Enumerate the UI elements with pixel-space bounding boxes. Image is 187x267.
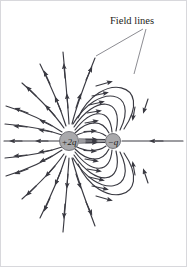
field-line-arrow-seg <box>67 174 68 186</box>
field-line <box>5 147 62 158</box>
negative-charge-label: −q <box>108 137 119 147</box>
field-line-arrow-seg <box>28 186 36 194</box>
field-line <box>72 158 95 226</box>
field-loop-arrow-seg <box>96 196 110 200</box>
figure-frame <box>1 1 187 267</box>
field-line-arrow-seg <box>47 166 55 175</box>
field-lines-callout: Field lines <box>96 15 154 74</box>
positive-charge: +2q <box>60 132 79 151</box>
field-line <box>40 64 66 126</box>
field-loop <box>75 146 106 151</box>
field-line-diagram: +2q −q Field lines <box>0 0 187 267</box>
field-line-arrow-seg <box>76 174 80 186</box>
field-line-arrow-seg <box>17 169 28 173</box>
field-line <box>5 124 62 135</box>
field-loop-arrow-seg <box>84 151 94 152</box>
field-line-arrow-seg <box>86 69 91 80</box>
field-line-arrow-seg <box>42 121 52 126</box>
field-line <box>72 58 95 124</box>
field-line-arrow-seg <box>56 99 61 111</box>
field-line-arrow-seg <box>56 171 61 183</box>
field-line-arrow-seg <box>86 202 91 213</box>
field-loop <box>75 132 106 137</box>
field-line-arrow-seg <box>76 96 80 108</box>
callout-leader-left <box>96 29 143 56</box>
field-loop-arrow-seg <box>96 82 110 86</box>
field-loop-arrow-seg <box>84 131 94 132</box>
field-line-arrow-seg <box>17 109 28 113</box>
field-line <box>63 158 69 232</box>
field-loop-arrow-seg <box>144 171 148 183</box>
field-line-arrow-seg <box>28 88 36 96</box>
field-line-arrow-seg <box>47 107 55 116</box>
escaping-field-lines <box>4 52 183 232</box>
field-lines-label: Field lines <box>110 15 154 26</box>
field-loop-arrow-seg <box>144 99 148 111</box>
field-line-arrow-seg <box>45 73 50 84</box>
field-line <box>40 156 66 218</box>
field-line <box>63 52 69 124</box>
positive-charge-label: +2q <box>61 137 77 147</box>
callout-leader-right <box>134 29 146 74</box>
field-line-arrow-seg <box>42 156 52 161</box>
field-line-arrow-seg <box>45 198 50 209</box>
field-line-arrow-seg <box>67 96 68 108</box>
negative-charge: −q <box>106 134 121 149</box>
